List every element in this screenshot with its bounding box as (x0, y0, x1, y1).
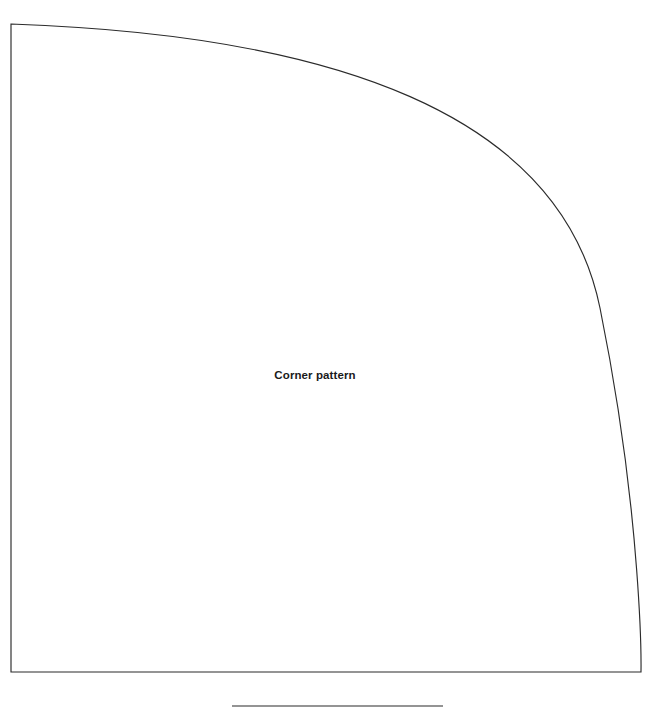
pattern-label: Corner pattern (0, 369, 658, 381)
corner-pattern-drawing (0, 0, 658, 715)
pattern-label-text: Corner pattern (274, 369, 355, 381)
pattern-sheet: Corner pattern (0, 0, 658, 715)
page-background (0, 0, 658, 715)
